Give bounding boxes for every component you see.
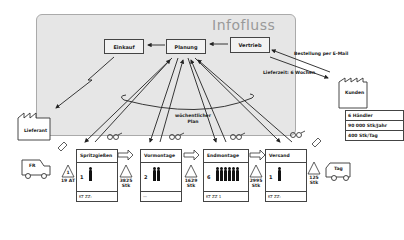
process-title: Vormontage (141, 150, 181, 163)
operator-icons (153, 170, 160, 181)
inventory-3: . 1629 Stk (181, 170, 201, 188)
customer-table-row: 6 Händler (346, 111, 403, 121)
process-spritzgiessen: Spritzgießen 1 KT ZZ: (76, 149, 118, 202)
customer-data-table: 6 Händler 90 000 Stk/Jahr 400 Stk/Tag (345, 110, 404, 141)
operator-icons (216, 170, 239, 181)
process-vormontage: Vormontage 2 — (140, 149, 182, 202)
truck-left-label: FR (29, 163, 36, 168)
process-title: Endmontage (204, 150, 248, 163)
glasses-icons (108, 131, 306, 140)
process-footer: — (141, 191, 181, 201)
operator-count: 1 (80, 174, 83, 180)
operator-count: 1 (269, 174, 272, 180)
customer-label: Kunden (345, 90, 364, 95)
inventory-2: . 3825 Stk (116, 170, 136, 188)
process-title: Versand (266, 150, 306, 163)
customer-table-row: 400 Stk/Tag (346, 131, 403, 140)
factory-icons (18, 78, 367, 140)
lieferzeit-label: Lieferzeit: 6 Wochen (263, 70, 315, 75)
inventory-5: . 125 Stk (304, 167, 324, 185)
operator-icons (89, 170, 92, 181)
process-footer: KT ZZ: (266, 191, 306, 201)
process-title: Spritzgießen (77, 150, 117, 163)
bestellung-label: Bestellung per E-Mail (294, 51, 348, 56)
operator-count: 2 (144, 174, 147, 180)
inventory-4: . 2995 Stk (246, 170, 266, 188)
process-footer: KT ZZ 1 (204, 191, 248, 201)
operator-icons (278, 170, 281, 181)
inventory-1: 1 19 AT (58, 170, 78, 183)
process-endmontage: Endmontage 6 KT ZZ 1 (203, 149, 249, 202)
process-footer: KT ZZ: (77, 191, 117, 201)
customer-table-row: 90 000 Stk/Jahr (346, 121, 403, 131)
supplier-label: Lieferant (24, 128, 47, 133)
weekly-plan-label: wöchentlicher Plan (172, 113, 214, 125)
truck-right-label: Tag (334, 166, 343, 171)
process-versand: Versand 1 KT ZZ: (265, 149, 307, 202)
operator-count: 6 (207, 174, 210, 180)
